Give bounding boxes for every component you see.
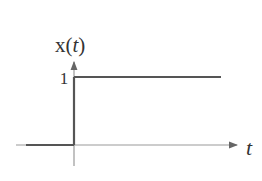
t-axis-label: t: [246, 135, 253, 160]
y-axis-label: x(t): [55, 33, 85, 57]
y-axis-label-fn: x: [55, 33, 66, 57]
y-axis-label-open: (: [66, 33, 73, 57]
unit-step-diagram: 1 x(t) t: [0, 0, 262, 181]
y-tick-label-1: 1: [60, 69, 69, 88]
y-axis-label-close: ): [78, 33, 85, 57]
